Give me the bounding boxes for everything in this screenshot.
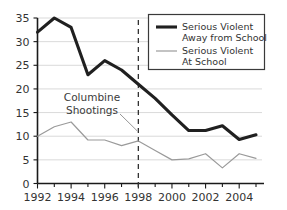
y-axis-tick-label: 15 — [16, 107, 30, 120]
y-axis-tick-label: 30 — [16, 36, 30, 49]
legend-label-away-from-school-line2: Away from School — [182, 32, 267, 43]
x-axis-tick-label: 2002 — [192, 191, 220, 204]
y-axis-tick-label: 5 — [23, 154, 30, 167]
x-axis-tick-label: 1994 — [57, 191, 85, 204]
legend-label-at-school-line2: At School — [182, 56, 227, 67]
y-axis-tick-label: 10 — [16, 130, 30, 143]
annotation-leader-line — [120, 114, 137, 131]
chart-container: 05101520253035 1992199419961998200020022… — [0, 0, 287, 210]
y-axis-tick-label: 20 — [16, 83, 30, 96]
y-axis-tick-label: 25 — [16, 59, 30, 72]
x-axis-tick-label: 1992 — [24, 191, 52, 204]
legend: Serious Violent Away from School Serious… — [149, 15, 268, 70]
line-chart: 05101520253035 1992199419961998200020022… — [0, 0, 287, 210]
annotation-columbine-line2: Shootings — [66, 104, 118, 116]
x-axis-tick-label: 1996 — [91, 191, 119, 204]
annotation-columbine-line1: Columbine — [64, 91, 120, 103]
y-axis-labels-group: 05101520253035 — [16, 12, 30, 191]
x-axis-tick-label: 1998 — [124, 191, 152, 204]
legend-label-away-from-school-line1: Serious Violent — [182, 21, 253, 32]
x-axis-tick-label: 2004 — [225, 191, 253, 204]
y-axis-tick-label: 35 — [16, 12, 30, 25]
series-line-at-school — [38, 122, 257, 168]
y-axis-tick-label: 0 — [23, 178, 30, 191]
legend-label-at-school-line1: Serious Violent — [182, 45, 253, 56]
x-axis-labels-group: 1992199419961998200020022004 — [24, 191, 254, 204]
x-axis-tick-label: 2000 — [158, 191, 186, 204]
